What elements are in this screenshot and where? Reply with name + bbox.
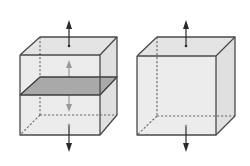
outer-arrow-up-head: [183, 20, 189, 29]
outer-arrow-down-origin: [185, 125, 188, 128]
cube-diagram: [0, 0, 250, 166]
right-cube-front-face: [137, 56, 216, 135]
outer-arrow-down-head: [183, 143, 189, 152]
right-cube: [137, 20, 235, 152]
outer-arrow-down-head: [66, 143, 72, 152]
outer-arrow-up-head: [66, 20, 72, 29]
left-cube: [20, 20, 117, 152]
diagram-stage: [0, 0, 250, 166]
outer-arrow-down-origin: [68, 124, 71, 127]
